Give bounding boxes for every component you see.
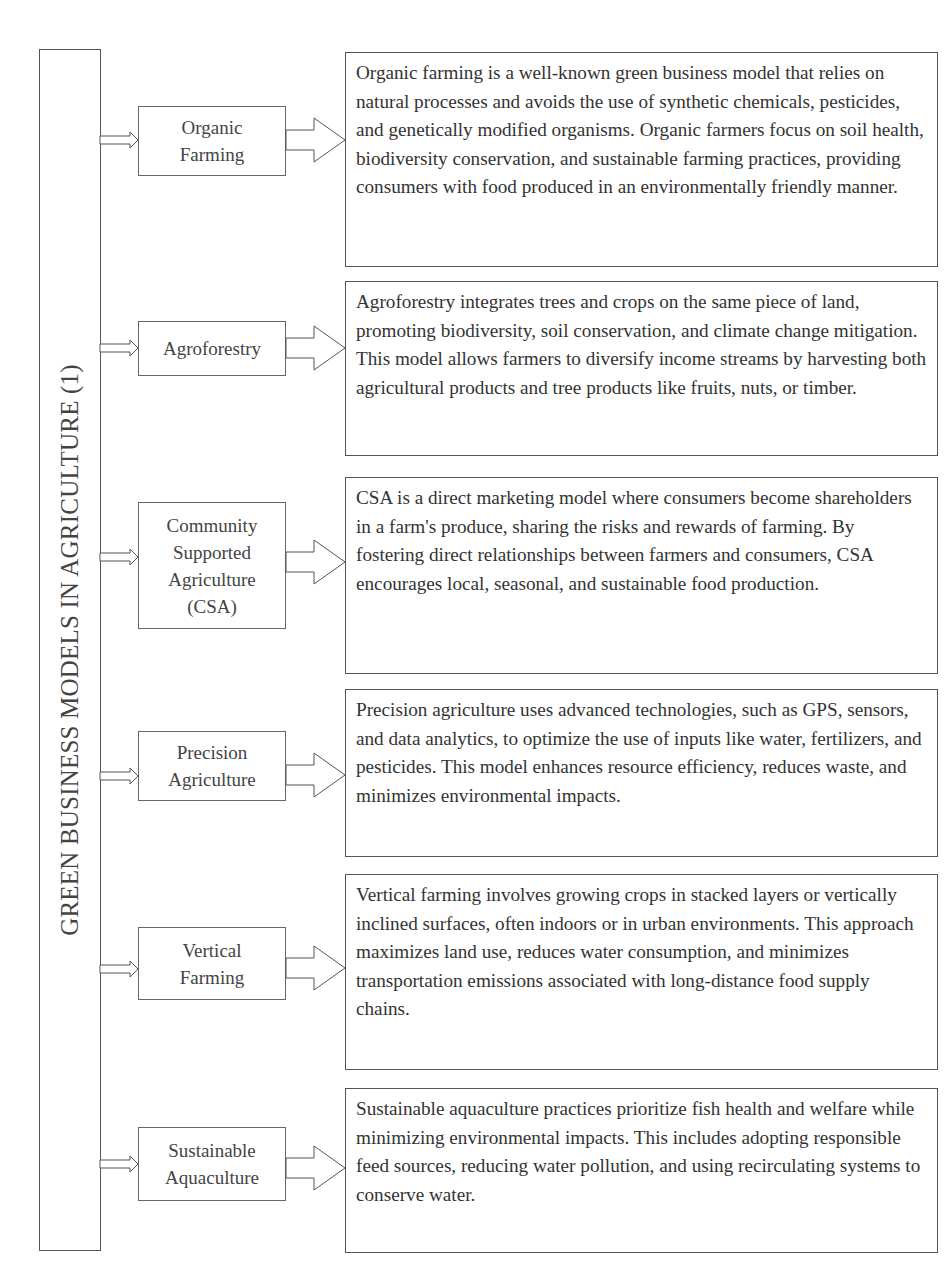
- description-box-sustainable-aquaculture: Sustainable aquaculture practices priori…: [345, 1088, 938, 1253]
- block-arrow-icon: [286, 540, 346, 584]
- small-arrow-icon: [100, 1156, 138, 1172]
- block-arrow-icon: [286, 1146, 346, 1190]
- small-arrow-icon: [100, 961, 138, 977]
- label-box-csa: Community Supported Agriculture (CSA): [138, 502, 286, 629]
- label-line: Organic: [180, 114, 244, 141]
- block-arrow-icon: [286, 753, 346, 797]
- description-text: Vertical farming involves growing crops …: [356, 881, 927, 1024]
- label-line: Farming: [180, 141, 244, 168]
- label-box-sustainable-aquaculture: SustainableAquaculture: [138, 1127, 286, 1201]
- main-title-bar: GREEN BUSINESS MODELS IN AGRICULTURE (1): [39, 49, 101, 1251]
- description-box-agroforestry: Agroforestry integrates trees and crops …: [345, 281, 938, 456]
- label-line: Agroforestry: [163, 335, 261, 362]
- label-line: Agriculture: [167, 566, 258, 593]
- description-box-precision-agriculture: Precision agriculture uses advanced tech…: [345, 689, 938, 857]
- label-box-organic-farming: OrganicFarming: [138, 106, 286, 176]
- label-line: (CSA): [167, 593, 258, 620]
- label-line: Community: [167, 512, 258, 539]
- description-box-csa: CSA is a direct marketing model where co…: [345, 477, 938, 674]
- label-line: Agriculture: [168, 766, 256, 793]
- label-box-agroforestry: Agroforestry: [138, 321, 286, 376]
- label-line: Farming: [180, 964, 244, 991]
- block-arrow-icon: [286, 326, 346, 370]
- label-line: Precision: [168, 739, 256, 766]
- small-arrow-icon: [100, 132, 138, 148]
- label-line: Supported: [167, 539, 258, 566]
- small-arrow-icon: [100, 549, 138, 565]
- label-box-vertical-farming: VerticalFarming: [138, 927, 286, 1000]
- description-box-organic-farming: Organic farming is a well-known green bu…: [345, 52, 938, 267]
- label-line: Vertical: [180, 937, 244, 964]
- description-text: Organic farming is a well-known green bu…: [356, 59, 927, 202]
- diagram-title: GREEN BUSINESS MODELS IN AGRICULTURE (1): [56, 364, 84, 936]
- description-text: CSA is a direct marketing model where co…: [356, 484, 927, 598]
- label-line: Sustainable: [165, 1137, 259, 1164]
- block-arrow-icon: [286, 118, 346, 162]
- label-line: Aquaculture: [165, 1164, 259, 1191]
- description-text: Precision agriculture uses advanced tech…: [356, 696, 927, 810]
- description-text: Agroforestry integrates trees and crops …: [356, 288, 927, 402]
- small-arrow-icon: [100, 768, 138, 784]
- small-arrow-icon: [100, 340, 138, 356]
- block-arrow-icon: [286, 946, 346, 990]
- label-box-precision-agriculture: PrecisionAgriculture: [138, 731, 286, 801]
- description-text: Sustainable aquaculture practices priori…: [356, 1095, 927, 1209]
- description-box-vertical-farming: Vertical farming involves growing crops …: [345, 874, 938, 1070]
